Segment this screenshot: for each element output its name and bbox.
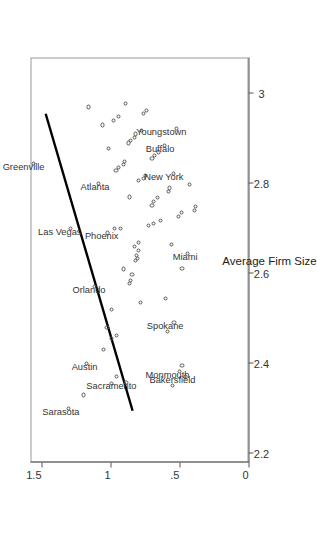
x-tick-label: 2.4 bbox=[253, 357, 268, 369]
x-tick-mark bbox=[248, 182, 253, 183]
data-point bbox=[116, 114, 120, 118]
data-point bbox=[179, 363, 183, 367]
screenshot-canvas: SarasotaSacramentoMonmouthBakersfieldAus… bbox=[0, 0, 317, 540]
data-point bbox=[146, 223, 150, 227]
data-point bbox=[109, 336, 113, 340]
data-point bbox=[151, 221, 155, 225]
data-point bbox=[123, 101, 127, 105]
data-point bbox=[111, 118, 115, 122]
y-tick-label: 1 bbox=[104, 468, 110, 480]
data-point bbox=[169, 242, 173, 246]
data-point bbox=[136, 178, 140, 182]
data-point-label: New York bbox=[144, 171, 183, 181]
data-point bbox=[114, 333, 118, 337]
data-point bbox=[101, 347, 105, 351]
scatter-plot-figure: SarasotaSacramentoMonmouthBakersfieldAus… bbox=[0, 0, 317, 540]
x-axis-title: Average Firm Size, 1977 bbox=[222, 254, 317, 266]
data-point bbox=[138, 300, 142, 304]
data-point-label: Youngstown bbox=[136, 126, 186, 136]
y-tick-mark bbox=[41, 462, 42, 467]
y-axis-line bbox=[30, 461, 249, 462]
x-tick-label: 2.2 bbox=[253, 447, 268, 459]
y-tick-label: 1.5 bbox=[26, 468, 41, 480]
data-point bbox=[100, 122, 104, 126]
data-point bbox=[158, 218, 162, 222]
data-point bbox=[112, 226, 116, 230]
y-tick-mark bbox=[110, 462, 111, 467]
data-point bbox=[192, 208, 196, 212]
data-point bbox=[118, 226, 122, 230]
x-tick-label: 2.6 bbox=[253, 267, 268, 279]
x-tick-label: 2.8 bbox=[253, 177, 268, 189]
data-point bbox=[128, 138, 132, 142]
data-point bbox=[167, 185, 171, 189]
data-point bbox=[109, 307, 113, 311]
x-tick-mark bbox=[248, 92, 253, 93]
data-point bbox=[136, 248, 140, 252]
data-point-label: Sacramento bbox=[86, 380, 136, 390]
data-point-label: Atlanta bbox=[80, 181, 109, 191]
data-point-label: Orlando bbox=[72, 284, 105, 294]
data-point bbox=[129, 272, 133, 276]
data-point bbox=[187, 182, 191, 186]
data-point bbox=[116, 165, 120, 169]
data-point bbox=[122, 159, 126, 163]
data-point bbox=[163, 296, 167, 300]
data-point bbox=[134, 253, 138, 257]
data-point bbox=[179, 210, 183, 214]
x-tick-label: 3 bbox=[258, 87, 264, 99]
data-point-label: Austin bbox=[71, 361, 97, 371]
data-point bbox=[106, 146, 110, 150]
data-point-label: Sarasota bbox=[42, 406, 79, 416]
data-point-label: Buffalo bbox=[145, 143, 174, 153]
data-point bbox=[86, 104, 90, 108]
data-point-label: Miami bbox=[172, 251, 197, 261]
data-point bbox=[144, 108, 148, 112]
data-point bbox=[127, 194, 131, 198]
y-tick-label: .5 bbox=[170, 468, 179, 480]
data-point bbox=[81, 392, 85, 396]
data-point bbox=[152, 153, 156, 157]
data-point bbox=[104, 325, 108, 329]
x-tick-mark bbox=[248, 362, 253, 363]
data-point-label: Greenville bbox=[2, 161, 44, 171]
data-point bbox=[193, 204, 197, 208]
y-tick-mark bbox=[248, 462, 249, 467]
data-point bbox=[128, 278, 132, 282]
data-point bbox=[179, 266, 183, 270]
x-tick-mark bbox=[248, 272, 253, 273]
x-tick-mark bbox=[248, 452, 253, 453]
data-point bbox=[151, 199, 155, 203]
data-point bbox=[176, 214, 180, 218]
data-point bbox=[121, 266, 125, 270]
data-point bbox=[114, 374, 118, 378]
data-point-label: Bakersfield bbox=[149, 375, 195, 385]
data-point-label: Spokane bbox=[147, 320, 184, 330]
data-point bbox=[132, 244, 136, 248]
data-point-label: Las Vegas bbox=[38, 226, 81, 236]
y-tick-mark bbox=[179, 462, 180, 467]
data-point-label: Phoenix bbox=[85, 231, 119, 241]
y-tick-label: 0 bbox=[242, 468, 248, 480]
data-point bbox=[155, 195, 159, 199]
data-point bbox=[136, 240, 140, 244]
